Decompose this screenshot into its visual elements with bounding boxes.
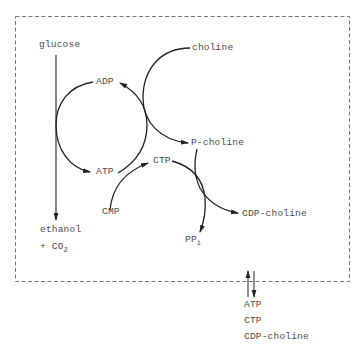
ppi-subscript: i [197, 239, 201, 247]
adp-to-atp-arc [56, 82, 93, 172]
label-co2: + CO2 [40, 242, 68, 252]
label-p-choline: P-choline [191, 138, 244, 148]
label-cmp: CMP [102, 207, 120, 217]
exchange-cdp-choline: CDP-choline [244, 332, 309, 342]
exchange-ctp: CTP [244, 316, 262, 326]
ctp-to-ppi-arc [172, 161, 205, 232]
co2-subscript: 2 [64, 246, 68, 254]
co2-text: + CO [40, 241, 64, 252]
label-glucose: glucose [39, 40, 80, 50]
label-atp: ATP [96, 167, 114, 177]
label-ctp: CTP [153, 156, 171, 166]
label-ppi: PPi [185, 235, 201, 245]
choline-to-p-choline-arc [143, 48, 190, 143]
label-adp: ADP [96, 77, 114, 87]
label-ethanol: ethanol [40, 225, 81, 235]
exchange-atp: ATP [244, 300, 262, 310]
pathway-diagram [0, 0, 363, 353]
label-choline: choline [192, 43, 233, 53]
ppi-text: PP [185, 234, 197, 245]
p-choline-to-cdp-choline-arc [195, 149, 238, 213]
label-cdp-choline: CDP-choline [242, 209, 307, 219]
cmp-to-ctp-arc [110, 163, 148, 210]
